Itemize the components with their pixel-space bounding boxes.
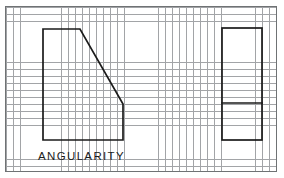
drawing-sheet: ANGULARITY [0,0,284,178]
angularity-front-view-outline [43,29,123,140]
drawing-caption: ANGULARITY [38,150,125,162]
angularity-side-view-rect [222,28,262,140]
